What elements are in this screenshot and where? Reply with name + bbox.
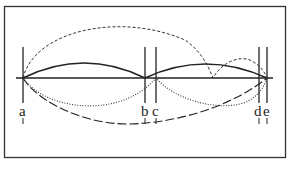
arc-diagram: a b c d e: [0, 0, 296, 169]
label-e: e: [263, 103, 270, 119]
label-d: d: [254, 103, 262, 119]
solid-arc-c-e: [145, 64, 267, 78]
solid-arc-a-b: [23, 63, 145, 78]
label-b: b: [141, 103, 149, 119]
label-a: a: [19, 103, 26, 119]
label-c: c: [152, 103, 159, 119]
